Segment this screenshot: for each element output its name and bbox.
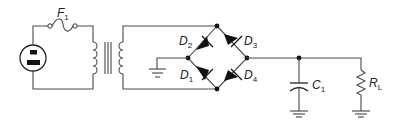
output-rail <box>247 58 361 70</box>
diode-d1 <box>196 66 213 80</box>
ac-outlet-icon <box>20 45 46 71</box>
resistor-rl: RL <box>352 70 383 117</box>
rl-label: RL <box>369 76 383 92</box>
c1-label: C1 <box>312 78 326 94</box>
bridge-rectifier: D2 D3 D1 D4 <box>179 24 258 92</box>
diode-d3 <box>224 34 242 47</box>
diode-d2 <box>196 36 213 50</box>
transformer <box>93 42 123 74</box>
capacitor-c1: C1 <box>290 58 326 117</box>
d3-label: D3 <box>244 34 258 50</box>
bridge-rectifier-diagram: F1 <box>0 0 397 127</box>
fuse-f1: F1 <box>48 6 77 31</box>
d2-label: D2 <box>179 34 193 50</box>
d4-label: D4 <box>244 68 258 84</box>
d1-label: D1 <box>180 68 194 84</box>
diode-d4 <box>224 69 242 81</box>
fuse-label: F1 <box>57 6 69 22</box>
